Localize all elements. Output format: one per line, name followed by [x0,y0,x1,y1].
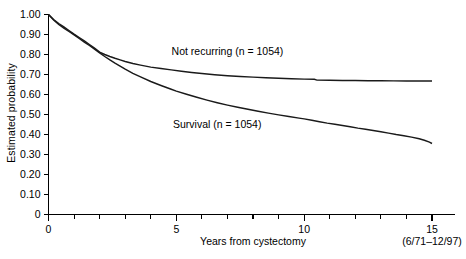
x-tick-label: 5 [173,223,179,235]
kaplan-meier-figure: Estimated probability 00.100.200.300.400… [0,0,466,259]
y-tick-label: 0.90 [20,28,41,40]
y-tick-label: 0 [35,208,41,220]
y-tick-label: 0.80 [20,48,41,60]
y-tick-label: 0.10 [20,188,41,200]
x-tick-label: 15 [426,223,438,235]
y-tick-label: 0.30 [20,148,41,160]
date-range-annotation: (6/71–12/97) [402,235,462,247]
curve-annotations: Not recurring (n = 1054)Survival (n = 10… [172,45,284,130]
y-tick-label: 1.00 [20,8,41,20]
y-tick-label: 0.60 [20,88,41,100]
x-tick-label: 10 [298,223,310,235]
y-tick-label: 0.70 [20,68,41,80]
survival-plot: 00.100.200.300.400.500.600.700.800.901.0… [0,0,466,259]
curve-label-not-recurring: Not recurring (n = 1054) [172,45,284,57]
y-axis-ticks: 00.100.200.300.400.500.600.700.800.901.0… [20,8,48,220]
x-tick-label: 0 [46,223,52,235]
x-axis-title: Years from cystectomy [200,235,307,247]
y-tick-label: 0.40 [20,128,41,140]
y-tick-label: 0.20 [20,168,41,180]
y-tick-label: 0.50 [20,108,41,120]
curve-label-survival: Survival (n = 1054) [173,118,261,130]
x-axis-ticks: 051015 [46,215,438,235]
